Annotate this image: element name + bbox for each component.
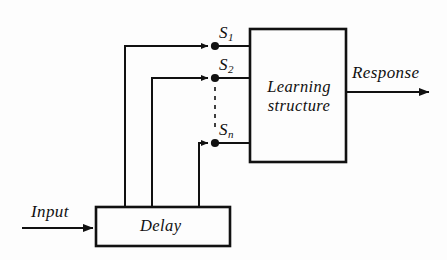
junction-dot-sn <box>211 139 219 147</box>
signal-label-s2: S2 <box>219 55 234 75</box>
delay-label: Delay <box>140 216 181 236</box>
tap-line-sn <box>199 143 208 207</box>
learning-structure-label-line1: Learning <box>256 77 342 96</box>
signal-label-sn: Sn <box>219 120 234 140</box>
input-label: Input <box>31 202 69 222</box>
learning-structure-label-line2: structure <box>256 96 342 115</box>
junction-dot-s2 <box>211 74 219 82</box>
junction-dot-s1 <box>211 42 219 50</box>
response-label: Response <box>352 63 419 83</box>
diagram-canvas: S1 S2 Sn Learning structure Delay Input … <box>0 0 447 260</box>
tap-line-s1 <box>125 46 208 207</box>
signal-label-s1: S1 <box>219 23 234 43</box>
learning-structure-label: Learning structure <box>256 77 342 115</box>
